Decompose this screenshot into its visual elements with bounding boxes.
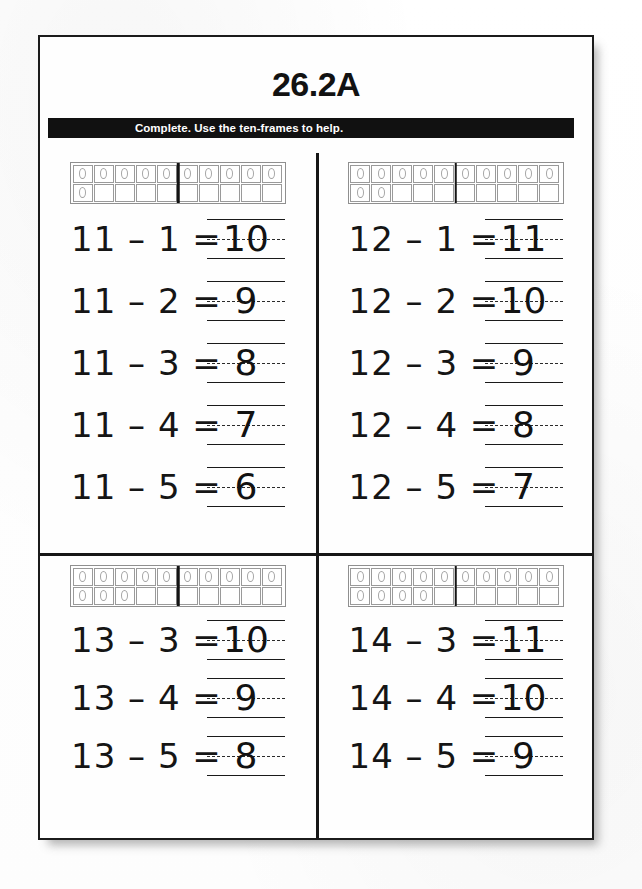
ten-frame-cell [413,568,433,586]
quadrant-top-right: 12 – 1 =1112 – 2 =1012 – 3 =912 – 4 =812… [316,153,592,553]
counter-circle-icon [226,168,233,179]
answer-blank[interactable]: 10 [485,279,563,323]
answer-blank[interactable]: 9 [207,279,285,323]
ten-frame-cell [413,587,433,605]
counter-circle-icon [247,168,254,179]
counter-circle-icon [79,187,86,198]
answer-value: 9 [485,734,563,778]
ten-frame-cell [94,568,114,586]
equation-row: 11 – 4 =7 [40,394,316,456]
ten-frame-cell [199,587,219,605]
counter-circle-icon [378,168,385,179]
quadrant-top-left: 11 – 1 =1011 – 2 =911 – 3 =811 – 4 =711 … [40,153,316,553]
answer-value: 8 [207,734,285,778]
ten-frame-cell [178,184,198,202]
ten-frame-cell [157,568,177,586]
counter-circle-icon [205,571,212,582]
answer-blank[interactable]: 6 [207,465,285,509]
ten-frame-cell [497,587,517,605]
answer-blank[interactable]: 9 [485,341,563,385]
ten-frame-cell [136,568,156,586]
answer-blank[interactable]: 10 [207,217,285,261]
ten-frame-cell [371,587,391,605]
counter-circle-icon [184,168,191,179]
answer-blank[interactable]: 10 [485,676,563,720]
counter-circle-icon [79,590,86,601]
ten-frame-cell [115,165,135,183]
ten-frame-cell [115,568,135,586]
answer-value: 8 [207,341,285,385]
counter-circle-icon [163,168,170,179]
counter-circle-icon [247,571,254,582]
answer-blank[interactable]: 8 [207,734,285,778]
ten-frame-cell [392,568,412,586]
equation-expression: 13 – 5 = [71,739,199,773]
ten-frame-cell [220,568,240,586]
equation-expression: 12 – 5 = [349,470,477,504]
ten-frame-cell [136,184,156,202]
ten-frame-cell [136,165,156,183]
counter-circle-icon [441,571,448,582]
counter-circle-icon [525,168,532,179]
equation-expression: 12 – 4 = [349,408,477,442]
counter-circle-icon [268,571,275,582]
ten-frame-cell [539,165,559,183]
answer-blank[interactable]: 11 [485,217,563,261]
ten-frame-cell [199,568,219,586]
counter-circle-icon [504,571,511,582]
equation-row: 13 – 5 =8 [40,727,316,785]
answer-value: 9 [207,279,285,323]
equation-row: 12 – 2 =10 [319,270,592,332]
answer-blank[interactable]: 9 [207,676,285,720]
counter-circle-icon [142,571,149,582]
ten-frame-cell [413,165,433,183]
ten-frame-cell [94,587,114,605]
answer-blank[interactable]: 11 [485,618,563,662]
answer-value: 11 [485,217,563,261]
ten-frame-cell [455,568,475,586]
answer-value: 10 [485,279,563,323]
equation-expression: 13 – 3 = [71,623,199,657]
ten-frame-cell [220,587,240,605]
equation-list: 14 – 3 =1114 – 4 =1014 – 5 =9 [319,611,592,785]
ten-frame-cell [518,587,538,605]
answer-value: 9 [485,341,563,385]
counter-circle-icon [163,571,170,582]
counter-circle-icon [357,590,364,601]
counter-circle-icon [205,168,212,179]
ten-frame-cell [73,165,93,183]
ten-frame-cell [434,165,454,183]
answer-blank[interactable]: 7 [207,403,285,447]
ten-frame-cell [262,568,282,586]
ten-frame-cell [392,184,412,202]
ten-frame-11 [70,162,286,204]
answer-blank[interactable]: 7 [485,465,563,509]
counter-circle-icon [378,590,385,601]
equation-row: 12 – 4 =8 [319,394,592,456]
counter-circle-icon [462,168,469,179]
counter-circle-icon [121,590,128,601]
answer-blank[interactable]: 8 [485,403,563,447]
ten-frame-cell [476,568,496,586]
ten-frame-cell [371,165,391,183]
equation-list: 13 – 3 =1013 – 4 =913 – 5 =8 [40,611,316,785]
answer-value: 10 [207,217,285,261]
ten-frame-cell [455,587,475,605]
answer-blank[interactable]: 9 [485,734,563,778]
answer-value: 7 [207,403,285,447]
ten-frame-cell [94,165,114,183]
ten-frame-cell [178,587,198,605]
answer-blank[interactable]: 10 [207,618,285,662]
ten-frame-cell [497,165,517,183]
equation-expression: 12 – 2 = [349,284,477,318]
answer-blank[interactable]: 8 [207,341,285,385]
ten-frame-cell [178,165,198,183]
counter-circle-icon [378,571,385,582]
equation-row: 14 – 4 =10 [319,669,592,727]
problem-grid: 11 – 1 =1011 – 2 =911 – 3 =811 – 4 =711 … [40,153,592,838]
ten-frame-14 [348,565,564,607]
ten-frame-cell [73,184,93,202]
equation-expression: 14 – 3 = [349,623,477,657]
counter-circle-icon [79,571,86,582]
ten-frame-cell [262,587,282,605]
